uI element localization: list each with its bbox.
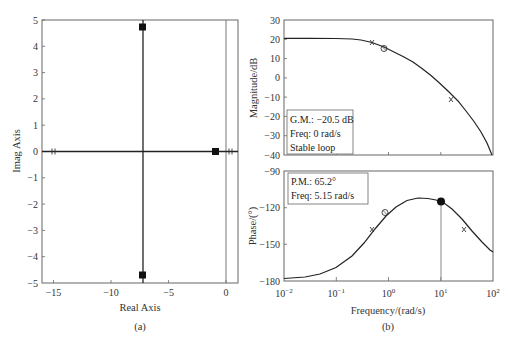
svg-text:−150: −150 — [259, 239, 280, 250]
bode-magnitude-plot: 302010 0−10−20 −30−40 G.M.: −20.5 dB Fre… — [248, 15, 493, 161]
svg-text:10−2: 10−2 — [275, 287, 293, 299]
svg-text:−2: −2 — [27, 199, 38, 210]
panel-b-label: (b) — [382, 321, 395, 333]
gm-status: Stable loop — [290, 142, 335, 153]
svg-text:−20: −20 — [264, 111, 280, 122]
svg-text:0: 0 — [224, 287, 229, 298]
svg-text:102: 102 — [486, 287, 500, 299]
root-locus-plot: 543 210 −1−2−3 −4−5 −15−10 −50 Real Axis… — [11, 15, 238, 334]
svg-text:−10: −10 — [264, 92, 280, 103]
svg-text:−3: −3 — [27, 225, 38, 236]
svg-text:−180: −180 — [259, 276, 280, 287]
svg-text:−5: −5 — [163, 287, 174, 298]
svg-text:1: 1 — [33, 120, 38, 131]
bode-phase-plot: −90−120 −150−180 10−2 10−1 100 101 102 P… — [247, 166, 500, 334]
svg-text:20: 20 — [270, 34, 280, 45]
svg-text:−5: −5 — [27, 278, 38, 289]
gm-freq: Freq: 0 rad/s — [290, 128, 341, 139]
svg-text:−40: −40 — [264, 150, 280, 161]
svg-text:4: 4 — [33, 41, 38, 52]
mag-ylabel: Magnitude/dB — [248, 58, 259, 119]
y-tick-labels: 543 210 −1−2−3 −4−5 — [27, 15, 38, 289]
pm-freq: Freq: 5.15 rad/s — [291, 190, 354, 201]
svg-text:5: 5 — [33, 15, 38, 26]
svg-text:−15: −15 — [46, 287, 62, 298]
svg-text:10−1: 10−1 — [328, 287, 346, 299]
panel-a-label: (a) — [134, 321, 146, 333]
svg-text:0: 0 — [33, 146, 38, 157]
pole-marker — [139, 24, 146, 31]
svg-text:−1: −1 — [27, 172, 38, 183]
figure: 543 210 −1−2−3 −4−5 −15−10 −50 Real Axis… — [0, 0, 508, 339]
x-tick-labels: −15−10 −50 — [46, 287, 229, 298]
gm-value: G.M.: −20.5 dB — [290, 114, 354, 125]
a-xlabel: Real Axis — [119, 302, 160, 313]
phase-ylabel: Phase/(°) — [247, 206, 259, 245]
svg-text:−10: −10 — [103, 287, 119, 298]
svg-text:100: 100 — [382, 287, 396, 299]
phase-y-tick-labels: −90−120 −150−180 — [259, 166, 280, 287]
svg-text:30: 30 — [270, 15, 280, 26]
phase-margin-marker — [437, 198, 445, 206]
freq-x-tick-labels: 10−2 10−1 100 101 102 — [275, 287, 500, 299]
mag-y-tick-labels: 302010 0−10−20 −30−40 — [264, 15, 280, 161]
svg-text:−120: −120 — [259, 202, 280, 213]
freq-xlabel: Frequency/(rad/s) — [351, 305, 426, 317]
svg-text:0: 0 — [275, 72, 280, 83]
svg-text:10: 10 — [270, 53, 280, 64]
pole-marker — [139, 272, 146, 279]
pm-value: P.M.: 65.2° — [291, 176, 336, 187]
svg-text:−4: −4 — [27, 251, 38, 262]
a-ylabel: Imag Axis — [11, 129, 22, 172]
svg-text:−90: −90 — [264, 166, 280, 177]
svg-text:3: 3 — [33, 67, 38, 78]
pole-marker — [212, 148, 219, 155]
svg-text:2: 2 — [33, 93, 38, 104]
svg-text:−30: −30 — [264, 130, 280, 141]
svg-text:101: 101 — [434, 287, 448, 299]
